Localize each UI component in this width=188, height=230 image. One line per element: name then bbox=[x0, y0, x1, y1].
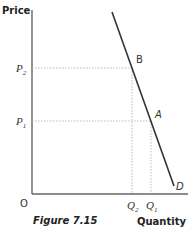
y-axis-label: Price bbox=[2, 5, 31, 16]
x-axis-label: Quantity bbox=[137, 216, 186, 227]
demand-curve bbox=[112, 12, 174, 186]
curve-d-label: D bbox=[176, 181, 184, 192]
demand-chart: Price Quantity O P2 P1 Q2 Q1 B A D Figur… bbox=[0, 0, 188, 230]
p2-label: P2 bbox=[15, 62, 27, 77]
point-b-label: B bbox=[136, 54, 143, 65]
figure-caption: Figure 7.15 bbox=[33, 215, 97, 226]
point-a-label: A bbox=[154, 109, 162, 120]
q1-label: Q1 bbox=[146, 199, 157, 214]
origin-label: O bbox=[20, 198, 28, 209]
q2-label: Q2 bbox=[127, 199, 139, 214]
p1-label: P1 bbox=[15, 115, 26, 130]
